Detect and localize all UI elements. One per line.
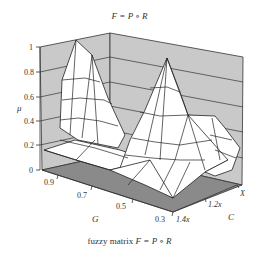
x-tick-0.5: 0.5 xyxy=(116,202,126,211)
x-axis-label: G xyxy=(92,214,99,224)
x-tick-0.3: 0.3 xyxy=(155,215,165,224)
y-tick-X: X xyxy=(239,189,246,198)
caption-prefix: fuzzy matrix xyxy=(88,236,136,246)
z-axis-label: μ xyxy=(16,103,22,113)
caption-formula: F = P ∘ R xyxy=(136,236,172,246)
z-tick-0: 0 xyxy=(29,166,33,175)
z-axis xyxy=(36,47,40,170)
z-tick-0.8: 0.8 xyxy=(24,68,34,77)
x-tick-0.9: 0.9 xyxy=(44,178,54,187)
z-tick-0.2: 0.2 xyxy=(24,141,34,150)
x-tick-0.7: 0.7 xyxy=(77,191,87,200)
y-axis-label: C xyxy=(228,212,235,222)
y-tick-1.4x: 1.4x xyxy=(176,215,190,224)
y-tick-1.2x: 1.2x xyxy=(208,200,222,209)
surface-plot: 1 0.8 0.6 0.4 0.2 0 μ 0.9 0.7 0.5 0.3 G … xyxy=(0,0,259,258)
z-tick-0.6: 0.6 xyxy=(24,93,34,102)
z-tick-1: 1 xyxy=(29,43,33,52)
chart-caption: fuzzy matrix F = P ∘ R xyxy=(0,236,259,246)
z-tick-0.4: 0.4 xyxy=(24,117,34,126)
